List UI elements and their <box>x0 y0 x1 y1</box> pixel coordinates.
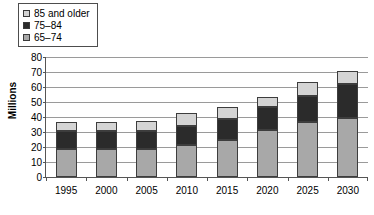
bar-segment[interactable] <box>96 122 117 131</box>
gridline <box>46 162 368 163</box>
gridline <box>46 72 368 73</box>
x-axis-tick-label: 1995 <box>55 185 77 196</box>
bar-segment[interactable] <box>257 97 278 107</box>
y-axis-tick <box>43 57 46 58</box>
y-axis-tick-label: 40 <box>31 112 42 123</box>
bar-segment[interactable] <box>136 131 157 150</box>
bar-segment[interactable] <box>257 130 278 177</box>
x-axis-tick-label: 2025 <box>297 185 319 196</box>
bar-segment[interactable] <box>96 149 117 177</box>
y-axis-tick <box>43 147 46 148</box>
bar-segment[interactable] <box>176 145 197 177</box>
x-axis-tick <box>207 177 208 181</box>
x-axis-tick-label: 2005 <box>136 185 158 196</box>
bar-segment[interactable] <box>136 149 157 177</box>
bar-segment[interactable] <box>217 107 238 120</box>
x-axis-tick-label: 2000 <box>95 185 117 196</box>
bar-segment[interactable] <box>337 118 358 177</box>
bar-segment[interactable] <box>297 96 318 122</box>
gridline <box>46 117 368 118</box>
y-axis-tick-label: 70 <box>31 67 42 78</box>
bar-2030[interactable] <box>337 71 358 178</box>
y-axis-tick-label: 60 <box>31 82 42 93</box>
y-axis-tick-label: 30 <box>31 127 42 138</box>
y-axis-tick-label: 10 <box>31 157 42 168</box>
x-axis-tick <box>367 177 368 181</box>
bar-segment[interactable] <box>176 126 197 145</box>
bar-1995[interactable] <box>56 122 77 177</box>
y-axis-tick <box>43 162 46 163</box>
bar-2015[interactable] <box>217 107 238 178</box>
y-axis-tick-label: 50 <box>31 97 42 108</box>
bar-segment[interactable] <box>337 71 358 85</box>
bar-2020[interactable] <box>257 97 278 177</box>
x-axis-tick-label: 2015 <box>216 185 238 196</box>
x-axis-tick-label: 2010 <box>176 185 198 196</box>
bar-segment[interactable] <box>217 140 238 178</box>
x-axis-tick <box>167 177 168 181</box>
bar-segment[interactable] <box>297 82 318 96</box>
gridline <box>46 147 368 148</box>
gridline <box>46 132 368 133</box>
bar-2010[interactable] <box>176 113 197 177</box>
bar-segment[interactable] <box>136 121 157 131</box>
bar-2005[interactable] <box>136 121 157 177</box>
y-axis-tick <box>43 72 46 73</box>
gridline <box>46 57 368 58</box>
y-axis-tick-label: 0 <box>36 172 42 183</box>
stacked-bar-chart: Millions 0102030405060708019952000200520… <box>0 0 374 215</box>
x-axis-tick <box>127 177 128 181</box>
bar-segment[interactable] <box>337 84 358 118</box>
y-axis-tick <box>43 102 46 103</box>
bar-2025[interactable] <box>297 82 318 177</box>
y-axis-tick-label: 80 <box>31 52 42 63</box>
bar-segment[interactable] <box>217 119 238 139</box>
bar-segment[interactable] <box>297 122 318 177</box>
bar-segment[interactable] <box>56 149 77 177</box>
bar-segment[interactable] <box>56 122 77 130</box>
y-axis-tick <box>43 117 46 118</box>
plot-area: 0102030405060708019952000200520102015202… <box>45 57 368 178</box>
y-axis-tick <box>43 132 46 133</box>
bar-segment[interactable] <box>257 107 278 130</box>
x-axis-tick <box>328 177 329 181</box>
x-axis-tick <box>46 177 47 181</box>
x-axis-tick-label: 2030 <box>337 185 359 196</box>
y-axis-tick-label: 20 <box>31 142 42 153</box>
gridline <box>46 87 368 88</box>
x-axis-tick <box>247 177 248 181</box>
x-axis-tick <box>288 177 289 181</box>
bar-segment[interactable] <box>176 113 197 126</box>
y-axis-title: Millions <box>7 71 18 131</box>
bar-2000[interactable] <box>96 122 117 177</box>
gridline <box>46 102 368 103</box>
bar-segment[interactable] <box>96 131 117 149</box>
x-axis-tick-label: 2020 <box>256 185 278 196</box>
x-axis-tick <box>86 177 87 181</box>
bar-segment[interactable] <box>56 131 77 150</box>
y-axis-tick <box>43 87 46 88</box>
